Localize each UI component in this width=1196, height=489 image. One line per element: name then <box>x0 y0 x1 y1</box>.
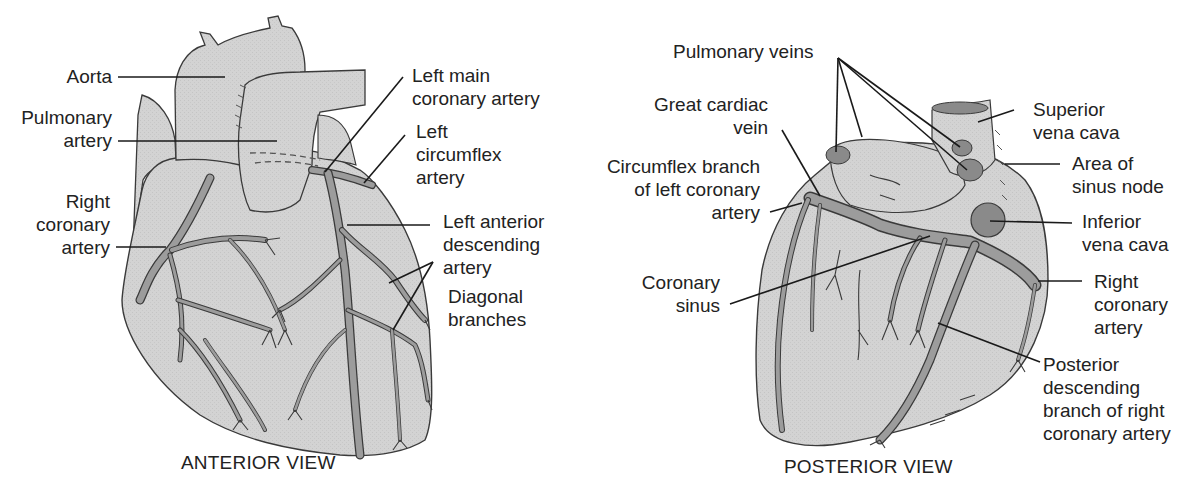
label-left-circumflex-artery: Left circumflex artery <box>416 120 502 189</box>
label-pulmonary-artery: Pulmonary artery <box>0 106 112 152</box>
label-coronary-sinus: Coronary sinus <box>620 271 720 317</box>
label-area-of-sinus-node: Area of sinus node <box>1072 152 1164 198</box>
label-pulmonary-veins: Pulmonary veins <box>673 40 813 63</box>
label-left-anterior-descending-artery: Left anterior descending artery <box>443 210 544 279</box>
label-right-coronary-artery-posterior: Right coronary artery <box>1094 270 1168 339</box>
label-diagonal-branches: Diagonal branches <box>448 285 526 331</box>
label-great-cardiac-vein: Great cardiac vein <box>620 93 768 139</box>
anterior-heart <box>122 16 432 456</box>
label-inferior-vena-cava: Inferior vena cava <box>1082 210 1169 256</box>
label-circumflex-branch-left-coronary-artery: Circumflex branch of left coronary arter… <box>590 155 760 224</box>
label-superior-vena-cava: Superior vena cava <box>1033 98 1120 144</box>
caption-posterior-view: POSTERIOR VIEW <box>784 456 953 478</box>
svc-opening <box>932 102 988 114</box>
pulmonary-vein-opening-1 <box>826 146 850 164</box>
posterior-heart <box>756 100 1048 448</box>
label-posterior-descending-branch: Posterior descending branch of right cor… <box>1043 353 1171 445</box>
coronary-anatomy-figure: Aorta Pulmonary artery Right coronary ar… <box>0 0 1196 489</box>
ivc-opening <box>971 203 1005 237</box>
label-right-coronary-artery-anterior: Right coronary artery <box>0 190 110 259</box>
heart-illustrations <box>0 0 1196 489</box>
pulmonary-vein-opening-3 <box>957 159 983 181</box>
label-aorta: Aorta <box>16 65 112 88</box>
caption-anterior-view: ANTERIOR VIEW <box>181 452 336 474</box>
label-left-main-coronary-artery: Left main coronary artery <box>412 64 540 110</box>
